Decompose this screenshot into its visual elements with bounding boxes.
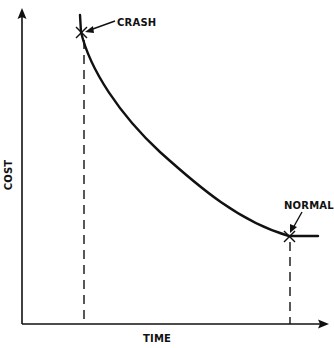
y-axis-label: COST — [3, 160, 14, 191]
time-cost-diagram: CRASH NORMAL TIME COST — [0, 0, 334, 348]
cost-curve — [80, 15, 318, 236]
normal-label: NORMAL — [284, 200, 334, 211]
crash-label: CRASH — [117, 17, 156, 28]
crash-arrow-icon — [85, 21, 115, 33]
normal-arrow-icon — [290, 212, 302, 233]
axes — [18, 8, 330, 329]
x-axis-label: TIME — [143, 333, 171, 344]
